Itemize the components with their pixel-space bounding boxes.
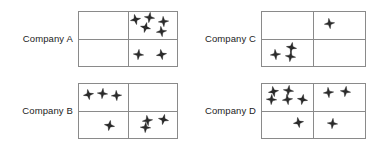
star-icon — [139, 20, 152, 33]
star-icon — [155, 48, 168, 61]
star-icon — [323, 86, 335, 98]
star-icon — [265, 93, 277, 105]
grid-box-company-c — [261, 11, 366, 67]
panel-label-company-c: Company C — [186, 34, 261, 44]
quadrant-bottom-right — [128, 111, 177, 138]
quadrant-top-right — [313, 84, 365, 111]
panel-label-company-a: Company A — [0, 34, 78, 44]
star-icon — [285, 51, 297, 63]
star-icon — [296, 93, 309, 106]
star-icon — [133, 48, 145, 60]
quadrant-bottom-right — [313, 111, 365, 138]
star-icon — [96, 87, 108, 99]
quadrant-bottom-right — [128, 39, 177, 66]
star-icon — [157, 113, 170, 126]
panel-company-a: Company A — [0, 11, 178, 67]
quadrant-bottom-left — [79, 39, 128, 66]
grid-box-company-b — [78, 83, 178, 139]
quadrant-top-left — [79, 12, 128, 39]
star-icon — [339, 85, 351, 97]
star-icon — [282, 93, 294, 105]
star-icon — [326, 118, 338, 130]
star-icon — [110, 90, 122, 102]
grid-box-company-d — [261, 83, 366, 139]
quadrant-top-right — [128, 12, 177, 39]
star-icon — [269, 48, 281, 60]
panel-label-company-b: Company B — [0, 106, 78, 116]
panel-label-company-d: Company D — [186, 106, 261, 116]
star-icon — [82, 88, 95, 101]
quadrant-bottom-left — [79, 111, 128, 138]
star-icon — [103, 119, 116, 132]
quadrant-bottom-right — [313, 39, 365, 66]
panel-company-b: Company B — [0, 83, 178, 139]
star-icon — [156, 25, 168, 37]
star-icon — [140, 122, 152, 134]
quadrant-top-left — [79, 84, 128, 111]
star-icon — [324, 17, 336, 29]
panel-company-d: Company D — [186, 83, 366, 139]
quadrant-top-left — [262, 84, 314, 111]
pictogram-figure: Company A Company C Company B — [0, 0, 379, 151]
quadrant-top-right — [128, 84, 177, 111]
quadrant-top-left — [262, 12, 314, 39]
star-icon — [292, 116, 305, 129]
grid-box-company-a — [78, 11, 178, 67]
quadrant-bottom-left — [262, 111, 314, 138]
quadrant-bottom-left — [262, 39, 314, 66]
quadrant-top-right — [313, 12, 365, 39]
panel-company-c: Company C — [186, 11, 366, 67]
